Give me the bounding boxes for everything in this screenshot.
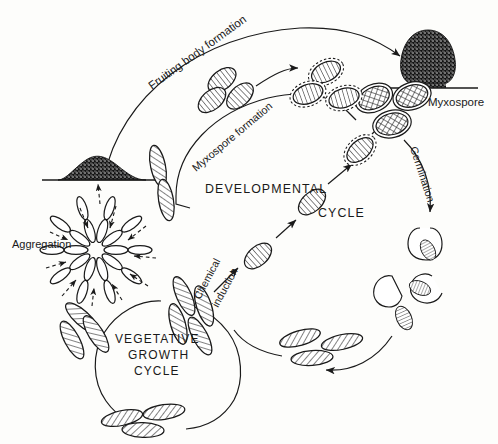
label-cycle-vegetative: CYCLE [134, 364, 180, 378]
label-developmental: DEVELOPMENTAL [205, 182, 327, 196]
label-aggregation: Aggregation [12, 238, 71, 250]
life-cycle-diagram: Fruiting body formation Myxospore format… [0, 0, 498, 444]
label-vegetative: VEGETATIVE [115, 332, 200, 346]
label-myxospore: Myxospore [428, 96, 484, 108]
diagram-canvas: Fruiting body formation Myxospore format… [0, 0, 498, 444]
label-growth: GROWTH [128, 348, 189, 362]
label-cycle-developmental: CYCLE [318, 206, 365, 220]
